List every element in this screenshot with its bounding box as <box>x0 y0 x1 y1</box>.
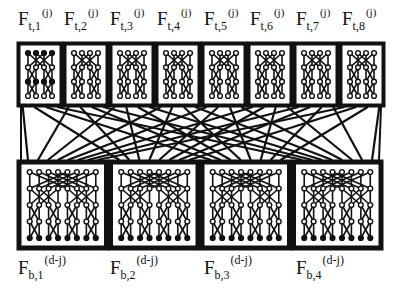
network-node <box>267 219 272 224</box>
network-node <box>349 186 354 191</box>
network-node <box>340 236 345 241</box>
network-node <box>356 51 361 56</box>
network-node <box>27 219 32 224</box>
bottom-subnetwork-1 <box>19 162 107 248</box>
network-node <box>264 65 269 70</box>
block-divider <box>105 160 113 250</box>
network-node <box>256 79 261 84</box>
network-node <box>157 170 162 175</box>
network-node <box>128 236 133 241</box>
network-node <box>348 65 353 70</box>
network-node <box>311 186 316 191</box>
top-block-label-4: Ft,4(j) <box>157 8 190 30</box>
network-node <box>26 51 31 56</box>
network-node <box>175 236 180 241</box>
network-node <box>340 186 345 191</box>
network-node <box>172 79 177 84</box>
top-subnetwork-6 <box>249 44 292 106</box>
network-node <box>118 94 123 99</box>
network-node <box>119 203 124 208</box>
network-node <box>42 65 47 70</box>
network-node <box>358 236 363 241</box>
network-node <box>321 236 326 241</box>
network-node <box>280 51 285 56</box>
bottom-block-label-2: Fb,2(d-j) <box>110 257 157 279</box>
interconnect-wire <box>23 107 28 160</box>
network-node <box>372 65 377 70</box>
network-node <box>280 65 285 70</box>
network-node <box>302 94 307 99</box>
network-node <box>220 236 225 241</box>
network-node <box>157 203 162 208</box>
network-node <box>96 94 101 99</box>
network-node <box>126 94 131 99</box>
network-node <box>348 51 353 56</box>
top-subnetwork-4 <box>157 44 200 106</box>
network-node <box>119 186 124 191</box>
network-node <box>84 186 89 191</box>
network-node <box>26 79 31 84</box>
network-node <box>276 186 281 191</box>
network-node <box>267 186 272 191</box>
network-node <box>185 186 190 191</box>
network-node <box>26 94 31 99</box>
bottom-block-label-1: Fb,1(d-j) <box>18 257 65 279</box>
network-node <box>276 203 281 208</box>
interconnect-wires <box>21 107 381 160</box>
network-node <box>248 236 253 241</box>
network-node <box>248 170 253 175</box>
interconnect-wire <box>372 107 379 160</box>
network-node <box>239 170 244 175</box>
network-node <box>358 219 363 224</box>
network-node <box>358 170 363 175</box>
network-node <box>280 79 285 84</box>
top-subnetwork-3 <box>111 44 154 106</box>
network-node <box>80 79 85 84</box>
network-node <box>147 203 152 208</box>
network-node <box>358 186 363 191</box>
network-node <box>358 203 363 208</box>
network-node <box>93 170 98 175</box>
network-node <box>50 79 55 84</box>
network-node <box>128 219 133 224</box>
network-node <box>218 79 223 84</box>
network-node <box>46 170 51 175</box>
network-node <box>166 203 171 208</box>
network-node <box>248 186 253 191</box>
network-node <box>88 94 93 99</box>
network-node <box>302 170 307 175</box>
network-node <box>210 170 215 175</box>
bottom-block-label-4: Fb,4(d-j) <box>296 257 343 279</box>
network-node <box>264 79 269 84</box>
network-node <box>172 51 177 56</box>
network-node <box>318 79 323 84</box>
network-node <box>42 51 47 56</box>
network-node <box>326 51 331 56</box>
network-node <box>321 186 326 191</box>
network-node <box>340 203 345 208</box>
network-node <box>42 94 47 99</box>
network-node <box>180 65 185 70</box>
network-node <box>46 186 51 191</box>
network-node <box>46 236 51 241</box>
network-node <box>368 186 373 191</box>
network-node <box>302 51 307 56</box>
network-node <box>164 79 169 84</box>
network-node <box>267 203 272 208</box>
network-node <box>349 203 354 208</box>
network-node <box>220 186 225 191</box>
top-subnetwork-2 <box>65 44 108 106</box>
network-node <box>368 170 373 175</box>
network-node <box>80 51 85 56</box>
network-node <box>56 170 61 175</box>
network-node <box>321 219 326 224</box>
network-node <box>172 65 177 70</box>
network-node <box>65 170 70 175</box>
network-node <box>27 236 32 241</box>
network-node <box>37 236 42 241</box>
network-node <box>280 94 285 99</box>
top-subnetwork-8 <box>341 44 384 106</box>
network-node <box>56 236 61 241</box>
network-node <box>157 186 162 191</box>
network-node <box>128 203 133 208</box>
